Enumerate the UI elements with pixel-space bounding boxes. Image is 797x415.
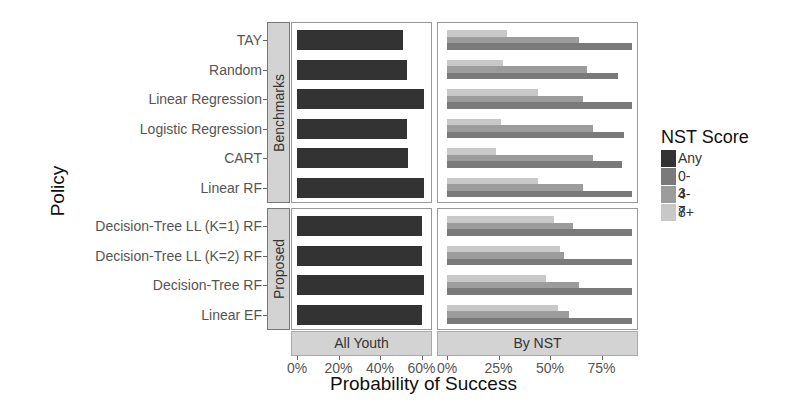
- legend-swatch: [661, 150, 676, 167]
- bar-nst-4-7: [447, 252, 564, 259]
- bar-nst-0-3: [447, 259, 632, 266]
- bar-any: [297, 275, 424, 295]
- x-tick-label: 50%: [536, 360, 564, 376]
- bar-nst-4-7: [447, 37, 579, 44]
- facet-strip-by-nst: By NST: [437, 331, 638, 356]
- x-tick-label: 20%: [324, 360, 352, 376]
- legend-title: NST Score: [661, 127, 749, 148]
- category-label: Decision-Tree LL (K=2) RF: [95, 248, 262, 264]
- bar-nst-8+: [447, 275, 546, 282]
- bar-nst-4-7: [447, 282, 579, 289]
- category-label: Linear Regression: [148, 91, 262, 107]
- category-label: Decision-Tree LL (K=1) RF: [95, 218, 262, 234]
- bar-nst-8+: [447, 305, 558, 312]
- bar-nst-4-7: [447, 311, 569, 318]
- x-axis-title: Probability of Success: [330, 373, 517, 395]
- bar-nst-8+: [447, 60, 503, 67]
- bar-any: [297, 119, 407, 139]
- category-label: Linear RF: [201, 180, 262, 196]
- bar-nst-8+: [447, 246, 560, 253]
- category-label: Logistic Regression: [140, 121, 262, 137]
- x-tick-label: 0%: [437, 360, 457, 376]
- bar-nst-4-7: [447, 96, 583, 103]
- bar-nst-4-7: [447, 184, 583, 191]
- bar-any: [297, 89, 424, 109]
- bar-nst-4-7: [447, 66, 587, 73]
- legend-label: Any: [678, 150, 702, 167]
- category-label: TAY: [237, 32, 262, 48]
- x-tick-label: 75%: [587, 360, 615, 376]
- x-tick-label: 60%: [407, 360, 435, 376]
- category-label: Random: [209, 62, 262, 78]
- legend-swatch: [661, 186, 676, 203]
- facet-strip-all-youth: All Youth: [291, 331, 432, 356]
- legend-swatch: [661, 204, 676, 221]
- bar-nst-0-3: [447, 43, 632, 50]
- bar-nst-0-3: [447, 229, 632, 236]
- bar-any: [297, 305, 422, 325]
- x-tick-label: 40%: [366, 360, 394, 376]
- y-tick: [263, 226, 267, 227]
- y-tick: [263, 40, 267, 41]
- bar-nst-0-3: [447, 73, 618, 80]
- bar-any: [297, 30, 403, 50]
- x-tick-label: 0%: [287, 360, 307, 376]
- legend-label: 8+: [678, 204, 694, 221]
- bar-nst-0-3: [447, 132, 624, 139]
- bar-any: [297, 216, 422, 236]
- bar-nst-4-7: [447, 155, 593, 162]
- facet-strip-proposed: Proposed: [267, 208, 290, 330]
- bar-nst-8+: [447, 30, 507, 37]
- bar-nst-0-3: [447, 191, 632, 198]
- y-axis-title: Policy: [47, 161, 69, 221]
- y-tick: [263, 315, 267, 316]
- category-label: Linear EF: [201, 307, 262, 323]
- bar-nst-0-3: [447, 161, 622, 168]
- facet-strip-label: Benchmarks: [271, 74, 287, 152]
- bar-nst-4-7: [447, 125, 593, 132]
- bar-any: [297, 60, 407, 80]
- bar-nst-4-7: [447, 223, 573, 230]
- bar-any: [297, 246, 422, 266]
- bar-nst-0-3: [447, 288, 632, 295]
- legend-swatch: [661, 168, 676, 185]
- x-tick-label: 25%: [484, 360, 512, 376]
- bar-any: [297, 178, 424, 198]
- y-tick: [263, 70, 267, 71]
- y-tick: [263, 99, 267, 100]
- bar-nst-8+: [447, 216, 554, 223]
- facet-strip-label: Proposed: [271, 239, 287, 299]
- bar-any: [297, 148, 408, 168]
- bar-nst-0-3: [447, 318, 632, 325]
- bar-nst-8+: [447, 119, 501, 126]
- bar-nst-0-3: [447, 102, 632, 109]
- bar-nst-8+: [447, 148, 496, 155]
- bar-nst-8+: [447, 89, 538, 96]
- y-tick: [263, 285, 267, 286]
- y-tick: [263, 256, 267, 257]
- bar-nst-8+: [447, 178, 538, 185]
- y-tick: [263, 158, 267, 159]
- facet-strip-benchmarks: Benchmarks: [267, 22, 290, 203]
- y-tick: [263, 188, 267, 189]
- y-tick: [263, 129, 267, 130]
- category-label: Decision-Tree RF: [153, 277, 262, 293]
- category-label: CART: [224, 150, 262, 166]
